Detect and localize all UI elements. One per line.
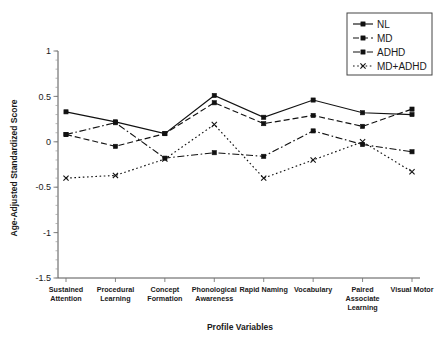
data-point-marker: [212, 151, 216, 155]
y-tick-label: -0.5: [35, 182, 51, 192]
x-category-label: Awareness: [195, 294, 233, 303]
data-point-marker: [311, 113, 315, 117]
x-axis-ticks: [66, 278, 412, 282]
data-point-marker: [360, 111, 364, 115]
y-tick-label: -1: [43, 228, 51, 238]
y-tick-label: 1: [46, 46, 51, 56]
x-axis-group: SustainedAttentionProceduralLearningConc…: [49, 278, 434, 312]
x-axis-title: Profile Variables: [207, 322, 273, 332]
data-point-marker: [113, 121, 117, 125]
series-md-plus-adhd: [63, 122, 414, 181]
data-point-marker: [311, 98, 315, 102]
data-point-marker: [64, 132, 68, 136]
data-point-marker: [262, 115, 266, 119]
data-point-marker: [409, 169, 414, 174]
y-tick-label: -1.5: [35, 273, 51, 283]
x-axis-category-labels: SustainedAttentionProceduralLearningConc…: [49, 285, 434, 312]
data-point-marker: [212, 101, 216, 105]
chart-canvas: 10.50-0.5-1-1.5 SustainedAttentionProced…: [0, 0, 438, 337]
data-point-marker: [262, 122, 266, 126]
x-category-label: Procedural: [97, 285, 135, 294]
x-category-label: Vocabulary: [294, 285, 332, 294]
y-axis-tick-labels: 10.50-0.5-1-1.5: [35, 46, 51, 283]
x-category-label: Phonological: [192, 285, 237, 294]
x-category-label: Associate: [346, 294, 380, 303]
x-category-label: Paired: [352, 285, 374, 294]
series-nl: [64, 93, 414, 135]
data-point-marker: [64, 110, 68, 114]
data-point-marker: [212, 93, 216, 97]
y-tick-label: 0.5: [38, 92, 51, 102]
legend-label: MD: [377, 33, 393, 44]
data-point-marker: [410, 107, 414, 111]
data-point-marker: [361, 36, 365, 40]
data-point-marker: [163, 132, 167, 136]
data-point-marker: [262, 154, 266, 158]
legend-label: ADHD: [377, 47, 405, 58]
data-point-marker: [360, 124, 364, 128]
y-axis-title: Age-Adjusted Standardized Score: [9, 99, 19, 236]
data-point-marker: [410, 150, 414, 154]
x-category-label: Formation: [147, 294, 182, 303]
y-axis-major-ticks: [54, 51, 59, 278]
series-line: [66, 125, 412, 179]
x-category-label: Concept: [150, 285, 179, 294]
x-category-label: Sustained: [49, 285, 83, 294]
data-point-marker: [311, 157, 316, 162]
data-point-marker: [212, 122, 217, 127]
data-point-marker: [361, 50, 365, 54]
legend-label: NL: [377, 19, 390, 30]
x-category-label: Learning: [100, 294, 130, 303]
data-point-marker: [311, 129, 315, 133]
y-tick-label: 0: [46, 137, 51, 147]
data-point-marker: [113, 144, 117, 148]
data-point-marker: [410, 112, 414, 116]
legend: NLMDADHDMD+ADHD: [347, 13, 432, 75]
series-line: [66, 123, 412, 158]
x-category-label: Rapid Naming: [240, 285, 288, 294]
x-category-label: Visual Motor: [391, 285, 434, 294]
x-category-label: Learning: [347, 303, 377, 312]
data-point-marker: [361, 22, 365, 26]
x-category-label: Attention: [50, 294, 82, 303]
series-line: [66, 95, 412, 133]
data-series-group: [63, 93, 414, 180]
data-point-marker: [63, 176, 68, 181]
y-axis-group: 10.50-0.5-1-1.5: [35, 46, 58, 283]
legend-label: MD+ADHD: [377, 61, 427, 72]
data-point-marker: [261, 176, 266, 181]
profile-variables-line-chart: 10.50-0.5-1-1.5 SustainedAttentionProced…: [0, 0, 438, 337]
